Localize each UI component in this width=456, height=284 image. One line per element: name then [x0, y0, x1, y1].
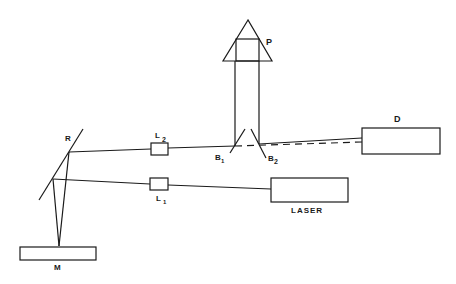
beamsplitter-b1 — [230, 129, 245, 153]
label-laser: LASER — [291, 206, 323, 215]
beam-dashed — [235, 142, 362, 146]
label-prism: P — [266, 37, 272, 47]
beam-lower-1 — [53, 179, 150, 184]
beam-upper-2 — [168, 146, 235, 148]
label-l2: L — [155, 131, 160, 140]
beam-lower-2 — [168, 185, 271, 189]
beam-r-to-m-1 — [53, 179, 59, 246]
lens-l1 — [150, 178, 168, 190]
label-b1-sub: 1 — [221, 158, 225, 164]
optical-setup-diagram: P D LASER R M L 2 L 1 B 1 B 2 — [0, 0, 456, 284]
label-l1-sub: 1 — [163, 199, 167, 205]
label-l1: L — [156, 194, 161, 203]
lens-l2 — [151, 143, 168, 155]
label-mirror-r: R — [65, 134, 71, 143]
prism — [223, 20, 272, 61]
label-b2-sub: 2 — [274, 158, 278, 165]
label-mirror-m: M — [54, 263, 61, 272]
laser-box — [271, 178, 348, 202]
label-l2-sub: 2 — [162, 136, 166, 143]
mirror-m-box — [20, 247, 96, 260]
detector-box — [362, 128, 440, 154]
label-detector: D — [394, 114, 401, 124]
mirror-r — [39, 129, 83, 200]
beam-upper-1 — [69, 149, 151, 152]
